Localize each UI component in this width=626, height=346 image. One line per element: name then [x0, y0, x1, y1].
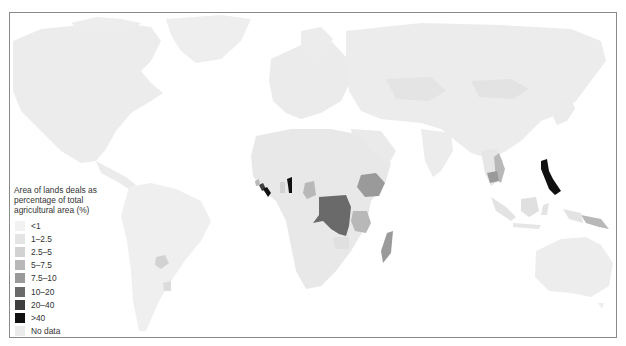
sulawesi — [541, 203, 549, 215]
madagascar — [381, 231, 393, 263]
legend-label: >40 — [31, 313, 45, 323]
legend-swatch — [15, 221, 25, 231]
legend-label: 5–7.5 — [31, 260, 52, 270]
legend-item: 20–40 — [12, 298, 130, 311]
legend-label: 20–40 — [31, 300, 54, 310]
legend-title-line: agricultural area (%) — [14, 205, 130, 215]
legend-swatch — [15, 300, 25, 310]
legend-label: 2.5–5 — [31, 247, 52, 257]
legend-item: 10–20 — [12, 285, 130, 298]
legend-title-line: Area of lands deals as — [14, 185, 130, 195]
legend-item: No data — [12, 325, 130, 338]
legend-swatch — [15, 326, 25, 336]
australia — [535, 237, 613, 297]
legend-item: >40 — [12, 311, 130, 324]
zambia-region — [333, 237, 349, 249]
legend-label: <1 — [31, 221, 41, 231]
legend-item: 1–2.5 — [12, 232, 130, 245]
indonesia-sumatra — [491, 197, 516, 221]
legend: Area of lands deals as percentage of tot… — [12, 183, 130, 338]
new-guinea-west — [563, 209, 583, 223]
legend-label: No data — [31, 326, 60, 336]
legend-title: Area of lands deals as percentage of tot… — [14, 185, 130, 215]
papua-new-guinea — [581, 215, 609, 229]
india — [421, 129, 453, 177]
legend-swatch — [15, 247, 25, 257]
legend-label: 10–20 — [31, 287, 54, 297]
legend-item: 7.5–10 — [12, 272, 130, 285]
legend-swatch — [15, 273, 25, 283]
borneo — [521, 197, 539, 217]
philippines — [541, 159, 561, 195]
legend-swatch — [15, 313, 25, 323]
legend-item: <1 — [12, 219, 130, 232]
north-america-landmass — [13, 23, 163, 163]
legend-swatch — [15, 260, 25, 270]
greenland — [166, 15, 251, 63]
legend-item: 5–7.5 — [12, 259, 130, 272]
legend-item: 2.5–5 — [12, 245, 130, 258]
map-frame: Area of lands deals as percentage of tot… — [9, 12, 617, 338]
legend-title-line: percentage of total — [14, 195, 130, 205]
legend-label: 1–2.5 — [31, 234, 52, 244]
legend-label: 7.5–10 — [31, 273, 57, 283]
ghana — [280, 182, 285, 193]
java — [513, 223, 541, 229]
tasmania — [598, 303, 604, 309]
canadian-arctic-islands — [71, 17, 141, 33]
legend-swatch — [15, 234, 25, 244]
legend-swatch — [15, 287, 25, 297]
